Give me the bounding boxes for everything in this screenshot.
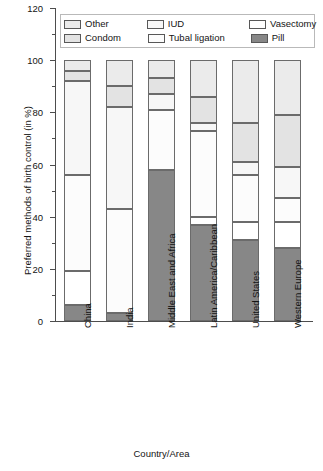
bar-segment-iud[interactable] [106, 107, 133, 209]
y-minor-tick-110 [52, 34, 55, 35]
bar-segment-iud[interactable] [148, 94, 175, 110]
y-axis-title: Preferred methods of birth control (in %… [22, 66, 33, 316]
x-tick-label-india: India [124, 307, 135, 328]
x-tick-label-latin-america-caribbean: Latin America/Caribbean [208, 224, 219, 328]
y-tick-0: 0 [50, 321, 55, 322]
bar-segment-vasectomy[interactable] [232, 222, 259, 240]
x-axis-line [55, 321, 313, 322]
bar-segment-condom[interactable] [274, 115, 301, 167]
x-tick-label-china: China [82, 303, 93, 328]
bar-segment-other[interactable] [106, 60, 133, 86]
bar-segment-iud[interactable] [232, 162, 259, 175]
y-tick-label-40: 40 [32, 211, 43, 222]
bar-segment-other[interactable] [64, 60, 91, 70]
y-axis-line [55, 8, 56, 322]
y-minor-tick-30 [52, 243, 55, 244]
bar-segment-condom[interactable] [64, 71, 91, 81]
bar-segment-tubal-ligation[interactable] [106, 209, 133, 313]
bar-segment-tubal-ligation[interactable] [190, 131, 217, 217]
chart-figure: Other IUD Vasectomy Condom Tubal ligatio… [0, 0, 323, 471]
bar-segment-vasectomy[interactable] [274, 222, 301, 248]
x-tick-label-western-europe: Western Europe [292, 260, 303, 328]
y-tick-label-60: 60 [32, 159, 43, 170]
y-tick-80: 80 [50, 112, 55, 113]
x-tick-label-middle-east-and-africa: Middle East and Africa [166, 233, 177, 328]
y-minor-tick-50 [52, 191, 55, 192]
x-tick-label-united-states: United States [250, 271, 261, 328]
bar-india[interactable] [106, 60, 133, 321]
y-tick-label-0: 0 [38, 316, 43, 327]
bar-segment-condom[interactable] [190, 97, 217, 123]
bar-segment-condom[interactable] [232, 123, 259, 162]
bar-segment-other[interactable] [190, 60, 217, 97]
y-tick-60: 60 [50, 165, 55, 166]
y-tick-label-20: 20 [32, 263, 43, 274]
bar-segment-tubal-ligation[interactable] [232, 175, 259, 222]
bar-segment-condom[interactable] [148, 78, 175, 94]
y-tick-label-120: 120 [27, 3, 43, 14]
y-minor-tick-10 [52, 295, 55, 296]
y-minor-tick-70 [52, 138, 55, 139]
bar-segment-other[interactable] [148, 60, 175, 78]
bar-segment-iud[interactable] [190, 123, 217, 131]
bar-segment-other[interactable] [274, 60, 301, 115]
y-tick-label-100: 100 [27, 55, 43, 66]
x-axis-title: Country/Area [0, 448, 323, 459]
plot-area: 020406080100120 ChinaIndiaMiddle East an… [55, 8, 313, 322]
bar-segment-iud[interactable] [274, 167, 301, 198]
bar-segment-condom[interactable] [106, 86, 133, 107]
y-tick-120: 120 [50, 8, 55, 9]
bar-segment-tubal-ligation[interactable] [274, 198, 301, 221]
bar-china[interactable] [64, 60, 91, 321]
bar-segment-other[interactable] [232, 60, 259, 123]
y-tick-40: 40 [50, 217, 55, 218]
y-tick-label-80: 80 [32, 107, 43, 118]
y-tick-20: 20 [50, 269, 55, 270]
y-minor-tick-90 [52, 86, 55, 87]
bar-segment-vasectomy[interactable] [64, 271, 91, 305]
bar-segment-tubal-ligation[interactable] [64, 175, 91, 272]
bar-segment-tubal-ligation[interactable] [148, 110, 175, 170]
y-tick-100: 100 [50, 60, 55, 61]
bar-segment-iud[interactable] [64, 81, 91, 175]
